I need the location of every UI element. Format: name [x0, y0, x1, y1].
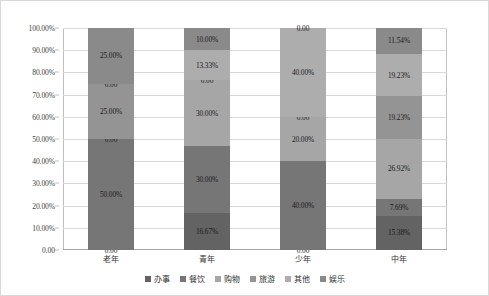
legend-swatch-icon	[215, 276, 221, 282]
y-axis-tick-label: 90.00%	[32, 46, 55, 55]
x-axis-category-label: 青年	[199, 253, 215, 264]
bar-segment-label: 40.00%	[292, 201, 314, 210]
bar-column[interactable]: 0.0040.00%20.00%0.0040.00%0.00	[280, 28, 326, 250]
bar-segment-label: 11.54%	[388, 36, 410, 45]
bar-segment-label: 50.00%	[100, 190, 122, 199]
legend-item[interactable]: 娱乐	[320, 273, 345, 284]
y-axis-tick-label: 70.00%	[32, 90, 55, 99]
bar-segment[interactable]: 20.00%	[280, 117, 326, 161]
legend-item[interactable]: 旅游	[250, 273, 275, 284]
bar-segment[interactable]: 11.54%	[376, 28, 422, 54]
bar-segment[interactable]: 50.00%	[88, 139, 134, 250]
y-axis-tick-mark	[55, 227, 59, 228]
bar-segment[interactable]: 15.38%	[376, 216, 422, 250]
y-axis-tick-mark	[55, 94, 59, 95]
stacked-bar-chart: 0.0010.00%20.00%30.00%40.00%50.00%60.00%…	[0, 0, 489, 296]
bar-segment[interactable]: 7.69%	[376, 199, 422, 216]
y-axis-tick-mark	[55, 72, 59, 73]
bar-segment[interactable]: 40.00%	[280, 28, 326, 117]
bar-segment-label: 40.00%	[292, 68, 314, 77]
bar-column[interactable]: 0.0050.00%0.0025.00%0.0025.00%	[88, 28, 134, 250]
bar-segment[interactable]: 13.33%	[184, 50, 230, 80]
bar-segment[interactable]: 19.23%	[376, 96, 422, 139]
y-axis-tick-label: 80.00%	[32, 68, 55, 77]
bar-stack: 0.0050.00%0.0025.00%0.0025.00%	[88, 28, 134, 250]
x-axis-category-label: 中年	[391, 253, 407, 264]
x-axis-category-label: 少年	[295, 253, 311, 264]
y-axis-tick-label: 50.00%	[32, 135, 55, 144]
bar-segment-label: 26.92%	[388, 164, 410, 173]
y-axis-tick-label: 100.00%	[28, 24, 55, 33]
y-axis-tick-mark	[55, 205, 59, 206]
y-axis-tick-mark	[55, 161, 59, 162]
bar-segment-label: 7.69%	[390, 203, 409, 212]
legend-item[interactable]: 办事	[145, 273, 170, 284]
bar-stack: 15.38%7.69%26.92%19.23%19.23%11.54%	[376, 28, 422, 250]
y-axis-tick-mark	[55, 183, 59, 184]
bar-segment[interactable]: 25.00%	[88, 84, 134, 140]
y-axis-tick-mark	[55, 50, 59, 51]
bar-segment-label: 19.23%	[388, 71, 410, 80]
bar-segment[interactable]: 40.00%	[280, 161, 326, 250]
legend-label: 娱乐	[329, 273, 345, 284]
bar-segment-label: 25.00%	[100, 107, 122, 116]
bar-stack: 0.0040.00%20.00%0.0040.00%0.00	[280, 28, 326, 250]
legend-label: 办事	[154, 273, 170, 284]
y-axis-tick-mark	[55, 250, 59, 251]
x-axis-category-label: 老年	[103, 253, 119, 264]
legend-swatch-icon	[145, 276, 151, 282]
bar-column[interactable]: 15.38%7.69%26.92%19.23%19.23%11.54%	[376, 28, 422, 250]
legend-swatch-icon	[285, 276, 291, 282]
bar-segment[interactable]: 16.67%	[184, 213, 230, 250]
plot-area: 0.0050.00%0.0025.00%0.0025.00%16.67%30.0…	[63, 28, 447, 250]
bar-segment-label: 0.00	[297, 24, 310, 33]
bar-segment-label: 16.67%	[196, 227, 218, 236]
bar-segment[interactable]: 10.00%	[184, 28, 230, 50]
bar-segment-label: 20.00%	[292, 135, 314, 144]
bar-segment[interactable]: 30.00%	[184, 146, 230, 213]
y-axis-tick-mark	[55, 139, 59, 140]
bar-stack: 16.67%30.00%30.00%0.0013.33%10.00%	[184, 28, 230, 250]
y-axis: 0.0010.00%20.00%30.00%40.00%50.00%60.00%…	[1, 28, 59, 250]
legend-item[interactable]: 餐饮	[180, 273, 205, 284]
y-axis-tick-label: 10.00%	[32, 223, 55, 232]
bar-segment-label: 10.00%	[196, 35, 218, 44]
bar-segment-label: 13.33%	[196, 61, 218, 70]
legend-label: 购物	[224, 273, 240, 284]
legend-swatch-icon	[180, 276, 186, 282]
bar-segment-label: 30.00%	[196, 175, 218, 184]
legend-label: 旅游	[259, 273, 275, 284]
bar-segment[interactable]: 26.92%	[376, 139, 422, 199]
y-axis-tick-label: 0.00	[42, 246, 55, 255]
y-axis-tick-mark	[55, 116, 59, 117]
bar-segment-label: 15.38%	[388, 228, 410, 237]
bar-segment[interactable]: 30.00%	[184, 80, 230, 147]
y-axis-tick-label: 20.00%	[32, 201, 55, 210]
y-axis-tick-label: 30.00%	[32, 179, 55, 188]
bar-column[interactable]: 16.67%30.00%30.00%0.0013.33%10.00%	[184, 28, 230, 250]
bar-segment-label: 19.23%	[388, 113, 410, 122]
legend-swatch-icon	[320, 276, 326, 282]
legend-swatch-icon	[250, 276, 256, 282]
legend-label: 餐饮	[189, 273, 205, 284]
bar-segment[interactable]: 25.00%	[88, 28, 134, 84]
bar-segment-label: 30.00%	[196, 109, 218, 118]
chart-legend: 办事餐饮购物旅游其他娱乐	[1, 273, 488, 284]
bar-segment-label: 25.00%	[100, 51, 122, 60]
y-axis-tick-mark	[55, 28, 59, 29]
y-axis-tick-label: 40.00%	[32, 157, 55, 166]
y-axis-tick-label: 60.00%	[32, 112, 55, 121]
legend-label: 其他	[294, 273, 310, 284]
bar-segment[interactable]: 19.23%	[376, 54, 422, 97]
legend-item[interactable]: 其他	[285, 273, 310, 284]
legend-item[interactable]: 购物	[215, 273, 240, 284]
